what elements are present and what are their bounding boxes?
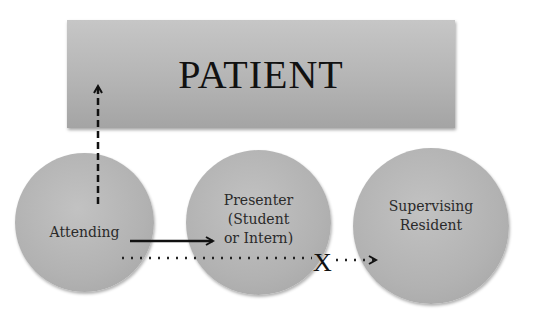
blocked-x-mark: X [313,248,332,278]
connector-arrows [0,0,534,314]
